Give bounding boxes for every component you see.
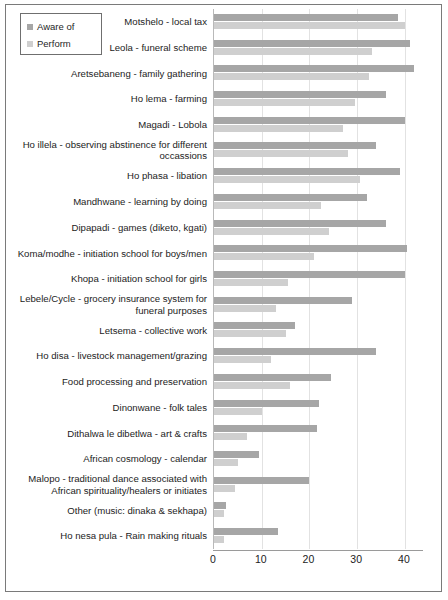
value-axis: 010203040 (213, 550, 423, 571)
bar-aware-of (214, 117, 405, 124)
category-label-row: Ho nesa pula - Rain making rituals (6, 523, 211, 549)
category-label: Lebele/Cycle - grocery insurance system … (6, 293, 207, 316)
category-label: Mandhwane - learning by doing (73, 196, 207, 208)
bar-group (214, 318, 424, 344)
category-label: Leola - funeral scheme (109, 42, 207, 54)
bar-perform (214, 485, 235, 492)
category-label: Ho lema - farming (131, 93, 207, 105)
bar-aware-of (214, 528, 278, 535)
category-label-row: African cosmology - calendar (6, 446, 211, 472)
legend-label-aware-of: Aware of (37, 22, 74, 32)
bar-aware-of (214, 65, 414, 72)
bar-aware-of (214, 322, 295, 329)
category-label: Other (music: dinaka & sekhapa) (67, 505, 207, 517)
legend-item-aware-of: Aware of (27, 18, 101, 35)
bar-perform (214, 459, 238, 466)
bar-aware-of (214, 297, 352, 304)
bar-group (214, 523, 424, 549)
bar-aware-of (214, 374, 331, 381)
category-label-row: Aretsebaneng - family gathering (6, 60, 211, 86)
bar-aware-of (214, 40, 410, 47)
bar-group (214, 138, 424, 164)
category-label-row: Food processing and preservation (6, 369, 211, 395)
legend-swatch-perform-icon (27, 41, 33, 47)
plot-area (213, 9, 424, 549)
bar-aware-of (214, 220, 386, 227)
category-label-row: Lebele/Cycle - grocery insurance system … (6, 292, 211, 318)
bar-aware-of (214, 194, 367, 201)
category-label: Dipapadi - games (diketo, kgati) (72, 222, 207, 234)
category-label-row: Malopo - traditional dance associated wi… (6, 472, 211, 498)
bar-group (214, 215, 424, 241)
bar-perform (214, 408, 262, 415)
bar-aware-of (214, 271, 405, 278)
category-label: Khopa - initiation school for girls (71, 273, 207, 285)
bar-aware-of (214, 400, 319, 407)
x-tick-label: 40 (398, 553, 410, 565)
bar-aware-of (214, 142, 376, 149)
bar-perform (214, 150, 348, 157)
bar-group (214, 446, 424, 472)
category-label: African cosmology - calendar (83, 453, 207, 465)
bar-perform (214, 125, 343, 132)
bar-perform (214, 48, 372, 55)
bar-group (214, 112, 424, 138)
category-label-row: Dithalwa le dibetlwa - art & crafts (6, 420, 211, 446)
bar-perform (214, 305, 276, 312)
bar-perform (214, 382, 290, 389)
category-label-row: Other (music: dinaka & sekhapa) (6, 498, 211, 524)
category-label-row: Dinonwane - folk tales (6, 395, 211, 421)
category-label-row: Ho illela - observing abstinence for dif… (6, 138, 211, 164)
bar-group (214, 240, 424, 266)
category-label: Motshelo - local tax (124, 16, 207, 28)
bar-aware-of (214, 91, 386, 98)
category-label: Food processing and preservation (62, 376, 207, 388)
bar-group (214, 266, 424, 292)
bar-group (214, 35, 424, 61)
x-tick-label: 20 (303, 553, 315, 565)
category-label-row: Magadi - Lobola (6, 112, 211, 138)
bar-aware-of (214, 477, 309, 484)
bar-group (214, 9, 424, 35)
bar-perform (214, 330, 286, 337)
category-label: Dinonwane - folk tales (113, 402, 207, 414)
category-label-row: Ho disa - livestock management/grazing (6, 343, 211, 369)
bar-group (214, 292, 424, 318)
legend-item-perform: Perform (27, 35, 101, 52)
category-label: Aretsebaneng - family gathering (71, 68, 207, 80)
category-label: Koma/modhe - initiation school for boys/… (18, 248, 207, 260)
chart-legend: Aware of Perform (20, 13, 102, 55)
bar-group (214, 395, 424, 421)
bar-group (214, 472, 424, 498)
category-label-row: Ho lema - farming (6, 86, 211, 112)
bar-perform (214, 99, 355, 106)
legend-label-perform: Perform (37, 39, 71, 49)
x-tick-label: 10 (255, 553, 267, 565)
bar-aware-of (214, 245, 407, 252)
category-label: Ho illela - observing abstinence for dif… (6, 139, 207, 162)
bar-perform (214, 510, 224, 517)
category-label-row: Mandhwane - learning by doing (6, 189, 211, 215)
bar-perform (214, 253, 314, 260)
bar-perform (214, 228, 329, 235)
bar-aware-of (214, 168, 400, 175)
bar-group (214, 189, 424, 215)
bar-group (214, 86, 424, 112)
category-label-row: Koma/modhe - initiation school for boys/… (6, 240, 211, 266)
category-label: Ho disa - livestock management/grazing (36, 350, 207, 362)
bar-group (214, 369, 424, 395)
category-label: Magadi - Lobola (138, 119, 207, 131)
bar-aware-of (214, 451, 259, 458)
bar-aware-of (214, 14, 398, 21)
category-label-row: Khopa - initiation school for girls (6, 266, 211, 292)
category-label: Dithalwa le dibetlwa - art & crafts (67, 428, 207, 440)
bar-group (214, 60, 424, 86)
category-axis: Motshelo - local taxLeola - funeral sche… (6, 9, 211, 549)
category-label: Letsema - collective work (99, 325, 207, 337)
bar-group (214, 163, 424, 189)
bar-perform (214, 433, 247, 440)
bar-perform (214, 73, 369, 80)
bar-group (214, 498, 424, 524)
category-label-row: Ho phasa - libation (6, 163, 211, 189)
bar-perform (214, 356, 271, 363)
